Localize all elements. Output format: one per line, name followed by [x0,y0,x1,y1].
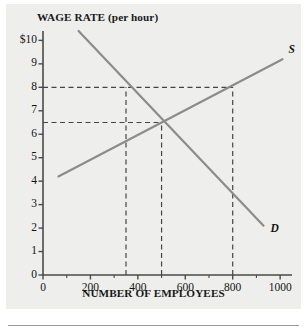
y-tick-label: $10 [7,33,37,45]
x-tick-label: 800 [213,281,253,293]
x-tick-label: 1000 [260,281,300,293]
x-tick-label: 200 [70,281,110,293]
figure-panel: WAGE RATE (per hour) NUMBER OF EMPLOYEES… [6,4,301,309]
curve-label-supply: S [289,43,295,55]
x-tick-label: 400 [118,281,158,293]
curve-demand [79,31,264,226]
y-tick-label: 8 [7,80,37,92]
y-tick-label: 5 [7,150,37,162]
curve-supply [58,59,282,176]
x-tick-label: 0 [23,281,63,293]
curve-label-demand: D [271,222,279,234]
supply-demand-chart [6,4,301,309]
y-tick-label: 2 [7,221,37,233]
y-tick-label: 6 [7,127,37,139]
y-tick-label: 9 [7,56,37,68]
y-tick-label: 0 [7,268,37,280]
y-tick-label: 4 [7,174,37,186]
bottom-divider [8,325,299,326]
x-tick-label: 600 [165,281,205,293]
y-tick-label: 3 [7,197,37,209]
y-tick-label: 7 [7,103,37,115]
y-tick-label: 1 [7,244,37,256]
